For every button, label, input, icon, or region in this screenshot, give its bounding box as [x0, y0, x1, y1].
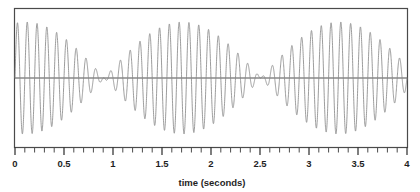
x-axis-tick-label: 0.5: [57, 158, 71, 169]
x-axis-tick-label: 3: [306, 158, 311, 169]
x-axis-tick-label: 1: [110, 158, 116, 169]
chart-canvas: 00.511.522.533.54 time (seconds): [0, 0, 420, 192]
beat-waveform-chart: 00.511.522.533.54 time (seconds): [0, 0, 420, 192]
x-axis-tick-label: 2: [208, 158, 213, 169]
x-axis-tick-label: 4: [404, 158, 410, 169]
x-axis-tick-label: 3.5: [351, 158, 365, 169]
x-axis-tick-label: 0: [12, 158, 17, 169]
x-axis-title: time (seconds): [178, 177, 245, 188]
x-axis-tick-label: 1.5: [155, 158, 169, 169]
x-axis-tick-label: 2.5: [253, 158, 267, 169]
